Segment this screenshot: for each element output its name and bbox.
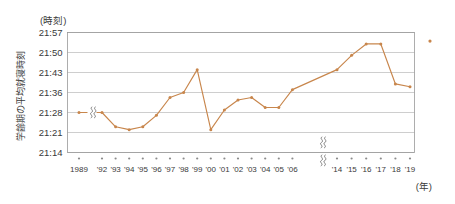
data-point — [277, 106, 280, 109]
x-tick-mark — [155, 157, 157, 159]
x-tick-label: '02 — [233, 165, 244, 174]
data-point — [209, 128, 212, 131]
y-tick-label: 21:21 — [39, 127, 63, 138]
x-tick-label: '14 — [332, 165, 343, 174]
x-tick-mark — [183, 157, 185, 159]
data-point — [182, 91, 185, 94]
x-tick-mark — [237, 157, 239, 159]
x-tick-mark — [291, 157, 293, 159]
x-axis-title: (年) — [416, 181, 432, 192]
x-tick-mark — [78, 157, 80, 159]
data-point — [237, 99, 240, 102]
x-tick-mark — [115, 157, 117, 159]
x-tick-mark — [351, 157, 353, 159]
x-tick-mark — [409, 157, 411, 159]
x-tick-mark — [264, 157, 266, 159]
y-axis-unit-label: (時刻) — [40, 15, 66, 26]
x-tick-label: '99 — [192, 165, 203, 174]
x-tick-label: '00 — [206, 165, 217, 174]
x-tick-mark — [251, 157, 253, 159]
break-symbol — [88, 106, 97, 119]
y-tick-label: 21:14 — [39, 147, 63, 158]
data-point — [169, 96, 172, 99]
data-point — [409, 85, 412, 88]
y-tick-label: 21:50 — [39, 47, 63, 58]
x-tick-mark — [142, 157, 144, 159]
outlier-point — [428, 39, 431, 42]
break-symbol — [318, 136, 327, 149]
x-tick-label: '92 — [97, 165, 108, 174]
x-tick-label: '93 — [110, 165, 121, 174]
x-tick-mark — [101, 157, 103, 159]
data-point — [114, 125, 117, 128]
y-tick-label: 21:57 — [39, 27, 63, 38]
x-tick-label: '15 — [346, 165, 357, 174]
x-tick-mark — [223, 157, 225, 159]
data-point — [350, 54, 353, 57]
data-point — [128, 128, 131, 131]
x-tick-mark — [336, 157, 338, 159]
x-tick-label: '96 — [151, 165, 162, 174]
x-tick-label: '17 — [376, 165, 387, 174]
chart-container: (時刻) 学齢期の平均就寝時刻 21:5721:5021:4321:3621:2… — [0, 0, 455, 204]
outlier-marker — [428, 39, 431, 42]
line-chart: (時刻) 学齢期の平均就寝時刻 21:5721:5021:4321:3621:2… — [0, 0, 455, 204]
data-point — [223, 109, 226, 112]
y-tick-label: 21:36 — [39, 87, 63, 98]
data-point — [196, 68, 199, 71]
x-tick-mark — [196, 157, 198, 159]
data-point — [379, 42, 382, 45]
x-tick-mark — [394, 157, 396, 159]
x-tick-label: '05 — [274, 165, 285, 174]
data-point — [250, 96, 253, 99]
y-tick-label: 21:28 — [39, 107, 63, 118]
x-tick-label: '18 — [390, 165, 401, 174]
x-tick-label: '04 — [260, 165, 271, 174]
x-tick-mark — [169, 157, 171, 159]
x-tick-label: '16 — [361, 165, 372, 174]
x-tick-label: '06 — [287, 165, 298, 174]
x-tick-label: '95 — [138, 165, 149, 174]
data-point — [365, 42, 368, 45]
x-tick-label: '19 — [405, 165, 416, 174]
y-tick-label: 21:43 — [39, 67, 63, 78]
data-point — [336, 68, 339, 71]
x-tick-label: '94 — [124, 165, 135, 174]
data-point — [101, 111, 104, 114]
x-tick-label: '97 — [165, 165, 176, 174]
x-tick-label: 1989 — [70, 165, 88, 174]
x-tick-mark — [365, 157, 367, 159]
x-tick-label: '01 — [219, 165, 230, 174]
x-tick-mark — [128, 157, 130, 159]
data-point — [264, 106, 267, 109]
x-tick-mark — [278, 157, 280, 159]
x-tick-label: '03 — [246, 165, 257, 174]
x-tick-mark — [210, 157, 212, 159]
x-tick-mark — [380, 157, 382, 159]
data-point — [394, 82, 397, 85]
break-symbol — [318, 154, 327, 167]
x-tick-label: '98 — [178, 165, 189, 174]
data-point — [155, 114, 158, 117]
data-point — [78, 111, 81, 114]
data-point — [291, 88, 294, 91]
data-point — [141, 125, 144, 128]
y-axis-title: 学齢期の平均就寝時刻 — [15, 51, 26, 141]
